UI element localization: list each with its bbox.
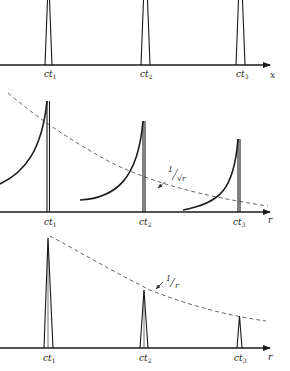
wake-curve-2 [80,121,143,200]
annotation-arrow [158,182,165,188]
tick-label-ct1: ct1 [44,217,57,228]
tick-label-ct1: ct1 [43,353,56,364]
pulse-2 [143,121,145,212]
wake-curve-3 [183,139,238,210]
svg-text:√r: √r [177,174,187,183]
annotation-arrow [156,282,163,289]
pulse-2 [141,0,150,65]
tick-label-ct3: ct3 [236,69,249,80]
tick-label-ct2: ct2 [140,69,153,80]
pulse-1 [45,0,52,65]
envelope-label-inverse-r: 1 r [166,274,180,290]
envelope-inverse-r [50,236,266,321]
panel-middle: 1 √r ct1 ct2 ct3 r [0,93,273,228]
pulse-3 [238,139,240,212]
axis-label-r: r [268,215,273,225]
envelope-label-inverse-sqrt-r: 1 √r [168,165,187,183]
panel-bottom: 1 r ct1 ct2 ct3 r [0,236,273,364]
panel-top: ct1 ct2 ct3 x [0,0,275,80]
pulse-3 [237,316,242,348]
wake-curve-1 [0,101,47,184]
tick-label-ct2: ct2 [139,217,152,228]
tick-label-ct3: ct3 [234,353,247,364]
svg-text:1: 1 [166,274,171,283]
tick-label-ct3: ct3 [233,217,246,228]
svg-text:r: r [175,281,180,290]
tick-label-ct2: ct2 [139,353,152,364]
svg-text:1: 1 [168,165,173,174]
pulse-1 [47,101,50,212]
tick-label-ct1: ct1 [44,69,57,80]
axis-label-x: x [270,70,275,80]
pulse-1 [44,238,53,348]
pulse-3 [236,0,245,65]
axis-label-r: r [268,352,273,362]
wave-propagation-diagram: ct1 ct2 ct3 x 1 √r ct1 ct2 ct3 r [0,0,290,371]
